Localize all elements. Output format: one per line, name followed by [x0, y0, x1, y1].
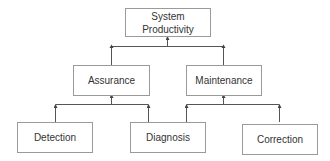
node-correction: Correction — [242, 124, 318, 155]
node-label: Detection — [34, 131, 76, 144]
node-label: Assurance — [88, 74, 135, 87]
node-diagnosis: Diagnosis — [130, 122, 206, 153]
node-label: Correction — [257, 133, 303, 146]
node-label: Maintenance — [195, 74, 252, 87]
node-assurance: Assurance — [73, 65, 150, 96]
node-maintenance: Maintenance — [186, 65, 262, 96]
node-system-productivity: System Productivity — [125, 8, 211, 37]
node-label: System — [151, 10, 184, 23]
hierarchy-diagram: System Productivity Assurance Maintenanc… — [0, 0, 330, 161]
node-label: Productivity — [142, 23, 194, 36]
node-label: Diagnosis — [146, 131, 190, 144]
node-detection: Detection — [17, 122, 93, 153]
